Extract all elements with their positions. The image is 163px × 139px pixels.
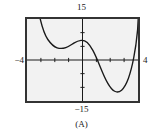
polynomial-curve [40, 19, 138, 92]
y-axis-min-label: −15 [0, 105, 163, 114]
x-axis-max-label: 4 [143, 56, 161, 65]
graph-viewing-window [25, 17, 140, 103]
x-axis-min-label: −4 [2, 56, 24, 65]
figure-caption: (A) [0, 120, 163, 129]
graph-plot-area [27, 19, 138, 101]
y-axis-max-label: 15 [0, 3, 163, 12]
graph-figure: 15 −4 4 −15 (A [0, 0, 163, 139]
